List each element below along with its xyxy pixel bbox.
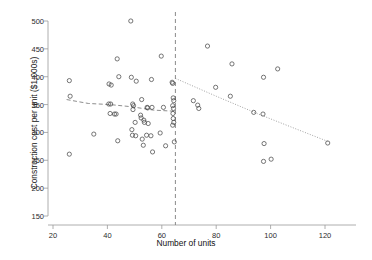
data-point [131, 107, 135, 111]
data-point [140, 137, 144, 141]
x-axis-title: Number of units [0, 238, 372, 248]
data-point [134, 79, 138, 83]
data-point [191, 99, 195, 103]
data-point [261, 159, 265, 163]
y-axis-title: Construction cost per unit ($1,000s) [29, 23, 39, 223]
data-point [164, 144, 168, 148]
data-point [141, 143, 145, 147]
data-point [172, 99, 176, 103]
data-point [129, 19, 133, 23]
data-point [171, 106, 175, 110]
data-point [261, 112, 265, 116]
data-point [115, 57, 119, 61]
data-point [140, 97, 144, 101]
data-point [116, 139, 120, 143]
data-point [150, 105, 154, 109]
data-point [158, 131, 162, 135]
data-point [161, 105, 165, 109]
data-point [205, 44, 209, 48]
data-point [129, 75, 133, 79]
data-point [146, 121, 150, 125]
data-point [149, 134, 153, 138]
data-point [117, 75, 121, 79]
data-point [214, 85, 218, 89]
plot-canvas [0, 0, 372, 260]
data-point [171, 123, 175, 127]
data-point [144, 133, 148, 137]
data-point [67, 79, 71, 83]
data-point [149, 77, 153, 81]
data-point [172, 120, 176, 124]
scatter-chart: 15020025030035040045050020406080100120 C… [0, 0, 372, 260]
data-point [171, 116, 175, 120]
data-point [68, 94, 72, 98]
data-point [139, 116, 143, 120]
data-point [130, 128, 134, 132]
axis-group [44, 21, 356, 229]
data-point [326, 141, 330, 145]
data-point [276, 67, 280, 71]
data-point [171, 104, 175, 108]
data-point [159, 54, 163, 58]
right-segment-fit [175, 78, 329, 142]
data-point [269, 157, 273, 161]
data-point [230, 62, 234, 66]
data-point [150, 150, 154, 154]
data-point [133, 120, 137, 124]
left-segment-fit [67, 100, 176, 112]
data-point [108, 111, 112, 115]
data-point [92, 132, 96, 136]
data-point [261, 75, 265, 79]
data-point [67, 152, 71, 156]
data-point [171, 111, 175, 115]
data-points-group [67, 19, 330, 164]
data-point [262, 141, 266, 145]
data-point [228, 94, 232, 98]
